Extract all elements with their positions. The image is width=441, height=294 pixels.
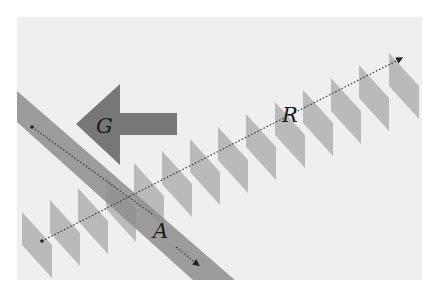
label-r: R	[281, 103, 298, 127]
label-g: G	[96, 114, 113, 138]
a-arrow-start-dot	[30, 125, 34, 129]
label-a: A	[151, 219, 168, 243]
r-arrow-start-dot	[40, 239, 44, 243]
diagram-canvas: G R A	[0, 0, 441, 294]
